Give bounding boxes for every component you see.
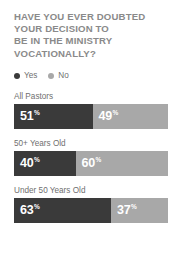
bar-segment-no[interactable]: 49 % — [93, 104, 168, 129]
bar-value-no: 60 — [82, 157, 96, 170]
legend-dot-icon-no — [48, 73, 54, 79]
bar-group-50-plus-years-old: 50+ Years Old 40 % 60 % — [14, 138, 168, 176]
chart-title: HAVE YOU EVER DOUBTED YOUR DECISION TO B… — [14, 0, 168, 60]
bar-percent-sign-yes: % — [34, 157, 40, 164]
legend-item-no[interactable]: No — [48, 71, 68, 81]
bar-percent-sign-yes: % — [34, 110, 40, 117]
stacked-bar: 51 % 49 % — [14, 104, 168, 129]
bar-segment-no[interactable]: 37 % — [111, 198, 168, 223]
bar-group-under-50-years-old: Under 50 Years Old 63 % 37 % — [14, 185, 168, 223]
chart-container: HAVE YOU EVER DOUBTED YOUR DECISION TO B… — [0, 0, 182, 271]
bar-segment-yes[interactable]: 40 % — [14, 151, 76, 176]
stacked-bar: 40 % 60 % — [14, 151, 168, 176]
bar-percent-sign-no: % — [96, 157, 102, 164]
bar-value-yes: 40 — [20, 157, 34, 170]
chart-legend: Yes No — [14, 70, 168, 82]
bar-value-yes: 63 — [20, 204, 34, 217]
bar-percent-sign-yes: % — [34, 204, 40, 211]
legend-label-yes: Yes — [24, 71, 37, 81]
bar-value-yes: 51 — [20, 110, 34, 123]
bar-segment-yes[interactable]: 63 % — [14, 198, 111, 223]
chart-title-line-2: YOUR DECISION TO — [14, 23, 109, 34]
bar-group-label: Under 50 Years Old — [14, 185, 168, 196]
bar-value-no: 37 — [117, 204, 131, 217]
chart-title-line-3: BE IN THE MINISTRY — [14, 35, 112, 46]
legend-dot-icon-yes — [14, 73, 20, 79]
bar-percent-sign-no: % — [131, 204, 137, 211]
bar-segment-yes[interactable]: 51 % — [14, 104, 93, 129]
legend-label-no: No — [58, 71, 68, 81]
chart-title-line-1: HAVE YOU EVER DOUBTED — [14, 11, 145, 22]
bar-value-no: 49 — [99, 110, 113, 123]
legend-item-yes[interactable]: Yes — [14, 71, 37, 81]
bar-segment-no[interactable]: 60 % — [76, 151, 168, 176]
chart-title-line-4: VOCATIONALLY? — [14, 48, 96, 59]
bar-group-label: All Pastors — [14, 91, 168, 102]
bar-group-all-pastors: All Pastors 51 % 49 % — [14, 91, 168, 129]
stacked-bar: 63 % 37 % — [14, 198, 168, 223]
bar-groups: All Pastors 51 % 49 % 50+ Years Old 40 % — [14, 91, 168, 223]
bar-percent-sign-no: % — [113, 110, 119, 117]
bar-group-label: 50+ Years Old — [14, 138, 168, 149]
